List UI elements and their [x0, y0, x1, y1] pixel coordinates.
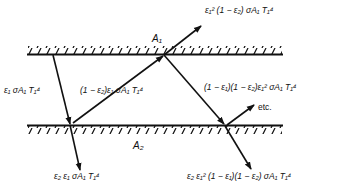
ray-continuation-arrow [227, 105, 254, 125]
radiation-exchange-diagram [0, 0, 342, 191]
surface-a2 [27, 126, 283, 135]
label-etc: etc. [258, 103, 272, 112]
ray-emitted-arrow [53, 55, 70, 124]
label-reflected-a1: (1 − ε₁)(1 − ε₂)ε₁² σA₁ T₁⁴ [204, 83, 297, 92]
surface-a2-hatching [28, 126, 282, 134]
surface-a2-label: A₂ [133, 141, 143, 151]
label-absorbed-a1: ε₁² (1 − ε₂) σA₁ T₁⁴ [205, 6, 273, 15]
surface-a1-hatching [28, 46, 282, 54]
surface-a1 [27, 46, 283, 55]
label-absorbed-a2-second: ε₂ ε₁² (1 − ε₁)(1 − ε₂) σA₁ T₁⁴ [187, 172, 291, 181]
label-absorbed-a2: ε₂ ε₁ σA₁ T₁⁴ [54, 172, 100, 181]
surface-a1-label: A₁ [152, 34, 162, 44]
label-reflected-a2: (1 − ε₂)ε₁ σA₁ T₁⁴ [80, 86, 143, 95]
label-emitted: ε₁ σA₁ T₁⁴ [4, 86, 40, 95]
